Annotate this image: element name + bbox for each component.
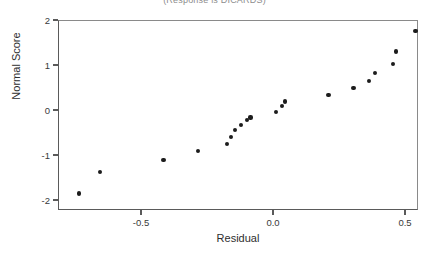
x-axis-label: Residual [58, 232, 418, 244]
data-point [413, 29, 417, 33]
data-point [351, 86, 355, 90]
x-axis-tick [404, 210, 405, 215]
data-point [196, 149, 200, 153]
y-axis-tick [53, 19, 58, 20]
data-point [225, 142, 229, 146]
y-axis-tick [53, 154, 58, 155]
y-axis-tick [53, 64, 58, 65]
y-axis-tick-label: -2 [42, 195, 50, 206]
x-axis-tick [272, 210, 273, 215]
data-point [229, 135, 233, 139]
x-axis-tick-label: -0.5 [133, 217, 149, 228]
y-axis-tick-label: 0 [45, 105, 50, 116]
data-point [326, 93, 330, 97]
y-axis-tick [53, 109, 58, 110]
data-point [248, 115, 252, 119]
y-axis-label: Normal Score [10, 6, 22, 126]
data-point [394, 49, 398, 53]
x-axis-tick [140, 210, 141, 215]
data-point [391, 62, 395, 66]
x-axis-tick-label: 0.0 [266, 217, 279, 228]
y-axis-tick-label: 2 [45, 15, 50, 26]
y-axis-tick-label: 1 [45, 60, 50, 71]
data-point [77, 191, 81, 195]
y-axis-tick [53, 199, 58, 200]
data-point [283, 99, 287, 103]
normal-probability-plot: (Response is DICARDS) -0.50.00.5210-1-2 … [0, 0, 429, 253]
x-axis-tick-label: 0.5 [398, 217, 411, 228]
plot-area [58, 20, 418, 210]
chart-title: (Response is DICARDS) [0, 0, 429, 5]
data-point [274, 110, 278, 114]
y-axis-tick-label: -1 [42, 150, 50, 161]
